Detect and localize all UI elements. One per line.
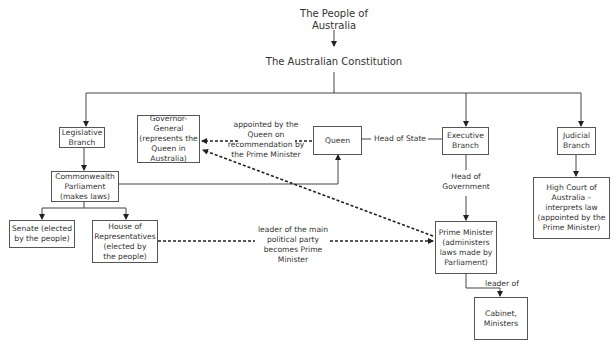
senate-node: Senate (elected by the people) <box>9 220 75 248</box>
head-of-government-label: Head of Government <box>436 172 496 192</box>
governor-general-node: Governor- General (represents the Queen … <box>137 115 200 163</box>
people-of-australia-label: The People of Australia <box>274 8 394 32</box>
constitution-label: The Australian Constitution <box>249 56 419 68</box>
cabinet-ministers-node: Cabinet, Ministers <box>474 297 528 340</box>
head-of-state-label: Head of State <box>370 134 430 144</box>
commonwealth-parliament-node: Commonwealth Parliament (makes laws) <box>51 171 119 202</box>
leader-of-label: leader of <box>482 279 522 289</box>
leader-of-party-label: leader of the main political party becom… <box>248 225 338 265</box>
high-court-node: High Court of Australia – interprets law… <box>533 177 610 239</box>
judicial-branch-node: Judicial Branch <box>557 127 596 155</box>
house-of-representatives-node: House of Representatives (elected by the… <box>92 220 158 263</box>
government-structure-diagram: The People of Australia The Australian C… <box>0 0 616 349</box>
appointed-by-queen-label: appointed by the Queen on recommendation… <box>226 120 306 160</box>
prime-minister-node: Prime Minister (administers laws made by… <box>435 221 497 274</box>
legislative-branch-node: Legislative Branch <box>59 127 105 148</box>
queen-node: Queen <box>313 126 362 155</box>
executive-branch-node: Executive Branch <box>442 127 489 155</box>
